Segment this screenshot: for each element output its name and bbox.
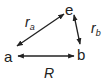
node-a-label: a [4,48,13,65]
node-e-label: e [65,1,73,18]
distance-diagram: e a b ra rb R [0,0,104,80]
edge-a-e-label: ra [25,14,35,32]
edge-a-e-subscript: a [30,22,35,32]
node-b-label: b [77,46,85,63]
edge-e-b-subscript: b [96,28,101,38]
edge-a-b-label: R [44,65,54,80]
edge-e-b-label: rb [91,20,101,38]
edge-e-b-arrow [74,15,80,44]
